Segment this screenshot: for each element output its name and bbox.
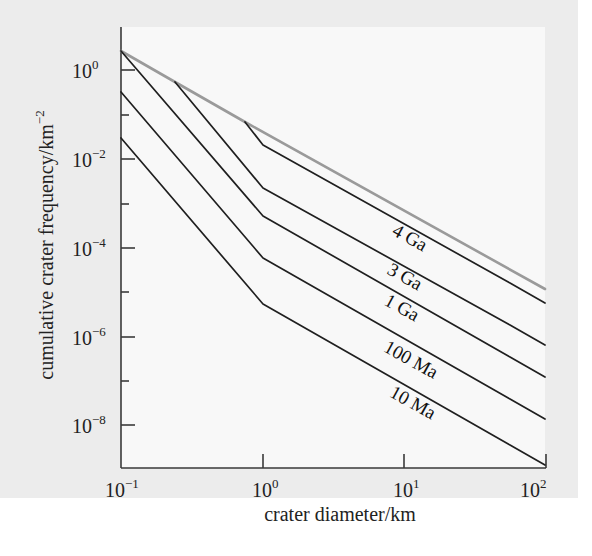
series-10ma-line (121, 138, 545, 465)
y-axis-title: cumulative crater frequency/km−2 (32, 110, 58, 379)
x-tick-label: 101 (393, 476, 420, 501)
y-tick-labels: 100 10−2 10−4 10−6 10−8 (72, 57, 106, 437)
series-label-1ga: 1 Ga (381, 289, 424, 325)
y-tick-label: 10−8 (72, 412, 106, 437)
y-tick-label: 10−4 (72, 235, 106, 260)
series-label-4ga: 4 Ga (389, 219, 432, 255)
series-saturation-line (121, 51, 545, 289)
series-label-10ma: 10 Ma (387, 381, 441, 423)
x-tick-labels: 10−1 100 101 102 (105, 476, 547, 501)
y-tick-label: 10−2 (72, 146, 106, 171)
x-tick-label: 100 (252, 476, 279, 501)
x-tick-label: 102 (520, 476, 547, 501)
y-tick-label: 10−6 (72, 324, 106, 349)
x-tick-label: 10−1 (105, 476, 139, 501)
series-3ga-line (175, 82, 545, 345)
crater-frequency-chart: 4 Ga 3 Ga 1 Ga 100 Ma 10 Ma 100 10−2 10−… (0, 0, 592, 556)
x-axis-title: crater diameter/km (264, 503, 416, 525)
series-1ga-line (121, 51, 545, 377)
y-tick-label: 100 (72, 57, 99, 82)
